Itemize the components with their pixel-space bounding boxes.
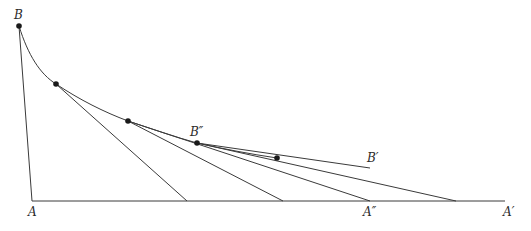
tangent-line-3 [128, 121, 370, 201]
point-2 [125, 118, 131, 124]
curve [19, 26, 277, 158]
segment-BA [19, 26, 32, 201]
label-A-double-prime: A″ [362, 205, 377, 219]
point-4 [274, 155, 280, 161]
label-B-prime: B′ [366, 151, 379, 165]
label-A: A [27, 205, 37, 219]
label-A-prime: A′ [502, 205, 515, 219]
tangent-line-4 [197, 143, 456, 201]
point-B-double-prime [194, 140, 200, 146]
tangent-line-2 [128, 121, 283, 201]
point-B [16, 23, 22, 29]
point-1 [53, 81, 59, 87]
segment-to-B-prime [197, 143, 370, 168]
label-B-double-prime: B″ [189, 125, 204, 139]
diagram-canvas: B A B″ B′ A″ A′ [0, 0, 531, 231]
tangent-line-1 [56, 84, 187, 201]
label-B: B [13, 8, 23, 22]
